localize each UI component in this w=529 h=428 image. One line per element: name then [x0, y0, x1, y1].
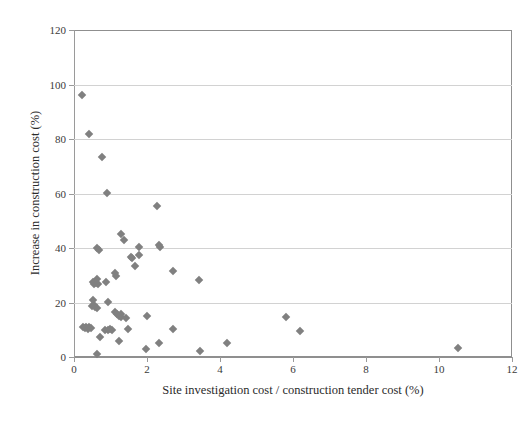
y-tick-mark	[69, 194, 74, 195]
y-tick-mark	[69, 30, 74, 31]
gridline	[74, 303, 512, 304]
x-tick-label: 4	[200, 364, 240, 375]
x-tick-mark	[293, 357, 294, 362]
x-tick-mark	[74, 357, 75, 362]
gridline	[74, 85, 512, 86]
x-tick-label: 6	[273, 364, 313, 375]
x-tick-mark	[512, 357, 513, 362]
gridline	[74, 139, 512, 140]
y-tick-mark	[69, 85, 74, 86]
y-tick-mark	[69, 248, 74, 249]
x-tick-label: 2	[127, 364, 167, 375]
x-tick-label: 8	[346, 364, 386, 375]
x-tick-mark	[439, 357, 440, 362]
gridline	[74, 194, 512, 195]
x-tick-mark	[147, 357, 148, 362]
scatter-chart-figure: 020406080100120 024681012 Increase in co…	[0, 0, 529, 428]
y-axis-title: Increase in construction cost (%)	[28, 28, 42, 358]
y-tick-mark	[69, 139, 74, 140]
x-axis-title: Site investigation cost / construction t…	[74, 383, 512, 397]
x-tick-mark	[366, 357, 367, 362]
x-tick-label: 10	[419, 364, 459, 375]
y-tick-mark	[69, 303, 74, 304]
x-tick-label: 0	[54, 364, 94, 375]
x-tick-mark	[220, 357, 221, 362]
x-tick-label: 12	[492, 364, 529, 375]
